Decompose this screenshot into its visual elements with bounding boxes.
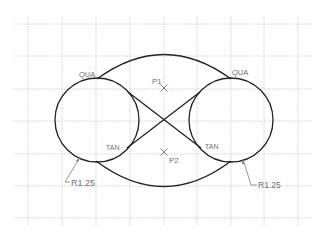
radius-label-right: R1.25 (258, 180, 281, 190)
cad-drawing-canvas[interactable]: QUA QUA TAN TAN P1 P2 R1.25 R1.25 (0, 0, 324, 233)
qua-label-right: QUA (232, 68, 248, 77)
left-circle[interactable] (55, 78, 139, 162)
tan-label-right: TAN (205, 143, 218, 150)
tan-label-left: TAN (106, 144, 119, 151)
bottom-arc[interactable] (96, 161, 231, 187)
p1-label: P1 (152, 77, 162, 86)
p2-label: P2 (169, 156, 179, 165)
qua-label-left: QUA (79, 70, 95, 79)
radius-label-left: R1.25 (71, 178, 95, 188)
right-radius-leader[interactable] (243, 159, 257, 185)
